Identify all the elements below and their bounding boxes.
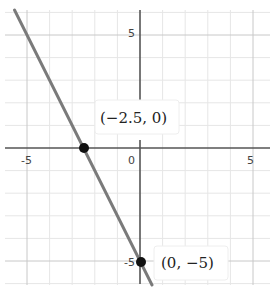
x-tick-label-zero: 0	[128, 154, 135, 167]
y-tick-label-pos5: 5	[128, 27, 135, 40]
point-label-y-intercept: (0, −5)	[161, 254, 214, 272]
point-label-x-intercept: (−2.5, 0)	[100, 109, 167, 127]
point-y-intercept[interactable]	[136, 257, 146, 267]
y-tick-label-neg5: -5	[124, 256, 135, 269]
x-tick-label-pos5: 5	[247, 154, 254, 167]
graph-canvas: -5 0 5 5 -5 (−2.5, 0) (0, −5)	[0, 0, 272, 292]
x-tick-label-neg5: -5	[21, 154, 32, 167]
point-x-intercept[interactable]	[79, 143, 89, 153]
